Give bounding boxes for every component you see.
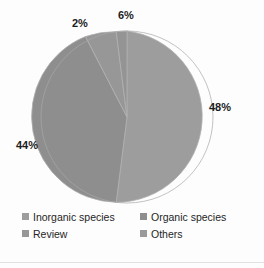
legend-item-review[interactable]: Review: [22, 225, 140, 242]
legend-swatch-icon: [140, 230, 147, 237]
legend-item-label: Review: [33, 228, 67, 240]
legend-swatch-icon: [140, 213, 147, 220]
legend-swatch-icon: [22, 213, 29, 220]
legend-item-inorganic-species[interactable]: Inorganic species: [22, 208, 140, 225]
slice-data-label-others: 2%: [72, 17, 88, 29]
figure-bottom-rule: [0, 262, 264, 263]
slice-data-label-inorganic-species: 48%: [209, 101, 231, 113]
legend-item-organic-species[interactable]: Organic species: [140, 208, 250, 225]
chart-legend: Inorganic species Organic species Review…: [22, 208, 250, 242]
pie-slices: [32, 31, 213, 203]
slice-data-label-review: 6%: [118, 9, 134, 21]
legend-item-label: Organic species: [151, 211, 226, 223]
pie-plot-area: 48% 44% 6% 2%: [0, 0, 264, 208]
legend-swatch-icon: [22, 230, 29, 237]
legend-item-label: Others: [151, 228, 183, 240]
slice-data-label-organic-species: 44%: [16, 139, 38, 151]
legend-item-others[interactable]: Others: [140, 225, 250, 242]
legend-item-label: Inorganic species: [33, 211, 115, 223]
pie-chart-figure: 48% 44% 6% 2% Inorganic species Organic …: [0, 0, 264, 268]
